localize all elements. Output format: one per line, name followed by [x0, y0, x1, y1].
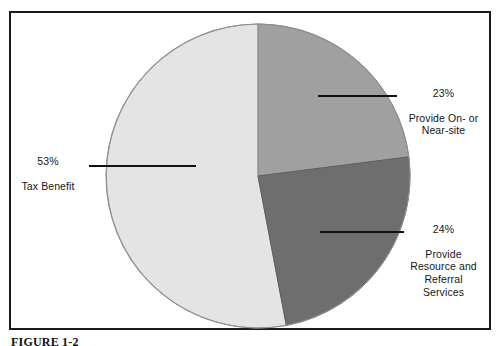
figure-container: 23% Provide On- or Near-site 24% Provide… — [0, 0, 503, 346]
pie-label-percent: 53% — [8, 155, 88, 168]
pie-slice-on-or-near-site[interactable] — [258, 24, 409, 176]
pie-label-text: Provide On- or Near-site — [392, 112, 495, 137]
pie-label-resource-referral: 24% Provide Resource and Referral Servic… — [392, 210, 495, 311]
pie-label-on-or-near-site: 23% Provide On- or Near-site — [392, 74, 495, 150]
pie-label-tax-benefit: 53% Tax Benefit — [8, 142, 88, 205]
pie-label-text: Tax Benefit — [8, 180, 88, 193]
pie-label-percent: 23% — [392, 87, 495, 100]
pie-label-percent: 24% — [392, 223, 495, 236]
figure-caption: FIGURE 1-2 — [11, 336, 79, 346]
pie-label-text: Provide Resource and Referral Services — [392, 248, 495, 298]
